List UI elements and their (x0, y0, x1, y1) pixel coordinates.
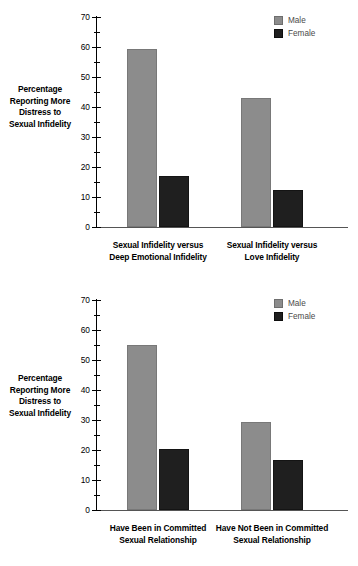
figure-root: PercentageReporting MoreDistress toSexua… (0, 0, 358, 566)
tick-mark (92, 137, 101, 138)
tick-mark (92, 77, 101, 78)
tick-mark (94, 405, 100, 406)
bar-female-group-1 (159, 176, 189, 227)
chart-bottom: PercentageReporting MoreDistress toSexua… (0, 283, 358, 566)
y-axis-tick-label: 10 (81, 475, 90, 485)
bar-female-group-2 (273, 190, 303, 227)
tick-mark (94, 375, 100, 376)
tick-mark (94, 435, 100, 436)
y-axis-title-line: Reporting More (2, 385, 78, 397)
y-axis-title-line: Distress to (2, 107, 78, 119)
y-axis-tick-label: 0 (85, 505, 90, 515)
y-axis-title-line: Sexual Infidelity (2, 119, 78, 131)
x-axis-category-label: Sexual Infidelity versusLove Infidelity (202, 240, 342, 263)
tick-mark (94, 315, 100, 316)
tick-mark (94, 212, 100, 213)
tick-mark (94, 92, 100, 93)
y-axis-tick-label: 30 (81, 132, 90, 142)
tick-mark (94, 182, 100, 183)
x-axis-category-label: Have Not Been in CommittedSexual Relatio… (202, 523, 342, 546)
bar-male-group-1 (127, 345, 157, 510)
tick-mark (92, 107, 101, 108)
tick-mark (92, 390, 101, 391)
plot-area-top: 010203040506070 (96, 17, 348, 227)
x-axis-line (96, 510, 348, 511)
y-axis-tick-label: 20 (81, 445, 90, 455)
x-axis-category-line: Sexual Infidelity versus (202, 240, 342, 252)
y-axis-tick-label: 20 (81, 162, 90, 172)
y-axis-title-line: Reporting More (2, 96, 78, 108)
tick-mark (92, 47, 101, 48)
tick-mark (92, 197, 101, 198)
y-axis-tick-label: 60 (81, 42, 90, 52)
y-axis-title: PercentageReporting MoreDistress toSexua… (2, 373, 78, 419)
tick-mark (92, 420, 101, 421)
tick-mark (94, 152, 100, 153)
x-axis-category-line: Have Not Been in Committed (202, 523, 342, 535)
x-axis-line (96, 227, 348, 228)
bar-female-group-1 (159, 449, 189, 510)
y-axis-title-line: Percentage (2, 373, 78, 385)
bar-male-group-2 (241, 422, 271, 510)
y-axis-tick-label: 70 (81, 295, 90, 305)
bar-male-group-2 (241, 98, 271, 227)
tick-mark (92, 227, 101, 228)
y-axis-tick-label: 40 (81, 102, 90, 112)
tick-mark (92, 510, 101, 511)
y-axis-tick-label: 50 (81, 355, 90, 365)
tick-mark (92, 17, 101, 18)
tick-mark (92, 480, 101, 481)
y-axis-title-line: Sexual Infidelity (2, 408, 78, 420)
bar-female-group-2 (273, 460, 303, 510)
y-axis-tick-label: 10 (81, 192, 90, 202)
x-axis-category-line: Sexual Relationship (202, 535, 342, 547)
y-axis-tick-label: 40 (81, 385, 90, 395)
tick-mark (92, 300, 101, 301)
y-axis-title: PercentageReporting MoreDistress toSexua… (2, 84, 78, 130)
y-axis-title-line: Distress to (2, 396, 78, 408)
tick-mark (92, 360, 101, 361)
y-axis-tick-label: 60 (81, 325, 90, 335)
chart-top: PercentageReporting MoreDistress toSexua… (0, 0, 358, 283)
tick-mark (94, 465, 100, 466)
y-axis-title-line: Percentage (2, 84, 78, 96)
y-axis-tick-label: 70 (81, 12, 90, 22)
x-axis-category-line: Love Infidelity (202, 252, 342, 264)
tick-mark (92, 450, 101, 451)
tick-mark (92, 330, 101, 331)
y-axis-tick-label: 50 (81, 72, 90, 82)
tick-mark (94, 32, 100, 33)
tick-mark (94, 62, 100, 63)
plot-area-bottom: 010203040506070 (96, 300, 348, 510)
tick-mark (92, 167, 101, 168)
y-axis-tick-label: 0 (85, 222, 90, 232)
tick-mark (94, 345, 100, 346)
tick-mark (94, 495, 100, 496)
y-axis-tick-label: 30 (81, 415, 90, 425)
tick-mark (94, 122, 100, 123)
bar-male-group-1 (127, 49, 157, 228)
